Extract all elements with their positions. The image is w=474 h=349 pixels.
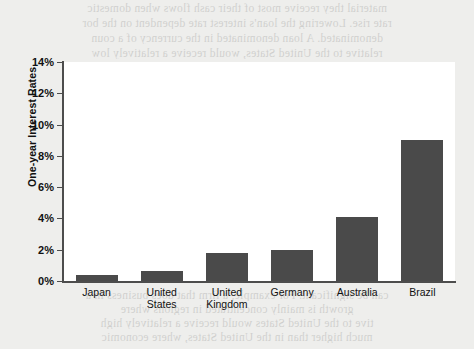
y-tick-mark — [57, 187, 64, 188]
y-tick-mark — [57, 281, 64, 282]
x-axis-label-line: Kingdom — [194, 299, 259, 311]
x-axis-label-line: States — [129, 299, 194, 311]
y-tick-mark — [57, 250, 64, 251]
x-axis-label-line: Brazil — [390, 287, 455, 299]
y-tick-label: 14% — [12, 57, 54, 68]
bar-chart: One-year Interest Rates 0%2%4%6%8%10%12%… — [0, 0, 474, 349]
x-axis-label-united-states: UnitedStates — [129, 287, 194, 310]
x-axis-label-line: Germany — [260, 287, 325, 299]
y-tick-label: 0% — [12, 276, 54, 287]
x-axis-label-japan: Japan — [64, 287, 129, 299]
y-tick-label: 4% — [12, 213, 54, 224]
bar-australia — [336, 217, 378, 281]
x-axis-label-line: Australia — [325, 287, 390, 299]
y-tick-label: 2% — [12, 245, 54, 256]
x-axis-label-line: United — [194, 287, 259, 299]
x-axis-label-germany: Germany — [260, 287, 325, 299]
bar-united-kingdom — [206, 253, 248, 281]
plot-area — [64, 62, 455, 281]
bar-japan — [76, 275, 118, 281]
bar-united-states — [141, 271, 183, 281]
x-axis-label-united-kingdom: UnitedKingdom — [194, 287, 259, 310]
y-tick-mark — [57, 156, 64, 157]
x-axis-label-brazil: Brazil — [390, 287, 455, 299]
bar-germany — [271, 250, 313, 281]
x-axis-line — [62, 281, 456, 283]
bar-brazil — [401, 140, 443, 281]
x-axis-label-australia: Australia — [325, 287, 390, 299]
x-axis-label-line: Japan — [64, 287, 129, 299]
x-axis-label-line: United — [129, 287, 194, 299]
y-tick-label: 6% — [12, 182, 54, 193]
y-tick-mark — [57, 93, 64, 94]
y-tick-mark — [57, 62, 64, 63]
y-tick-label: 12% — [12, 88, 54, 99]
y-tick-mark — [57, 218, 64, 219]
y-tick-label: 10% — [12, 120, 54, 131]
y-tick-label: 8% — [12, 151, 54, 162]
y-tick-mark — [57, 125, 64, 126]
